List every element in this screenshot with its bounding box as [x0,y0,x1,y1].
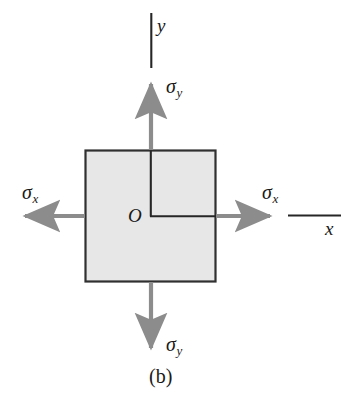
origin-label: O [128,206,142,225]
sigma-subscript: y [176,343,182,358]
label-sigma-x-left: σx [22,182,38,202]
sigma-subscript: y [176,85,182,100]
x-axis-label: x [325,219,333,238]
figure-caption: (b) [149,366,172,386]
label-sigma-y-top: σy [166,76,182,96]
sigma-glyph: σ [166,75,176,97]
label-sigma-y-bottom: σy [166,334,182,354]
sigma-subscript: x [272,191,278,206]
stress-element-figure: σy σy σx σx y x O (b) [0,0,356,399]
label-sigma-x-right: σx [262,182,278,202]
y-axis-label: y [157,16,165,35]
sigma-glyph: σ [166,333,176,355]
sigma-glyph: σ [262,181,272,203]
sigma-glyph: σ [22,181,32,203]
sigma-subscript: x [32,191,38,206]
